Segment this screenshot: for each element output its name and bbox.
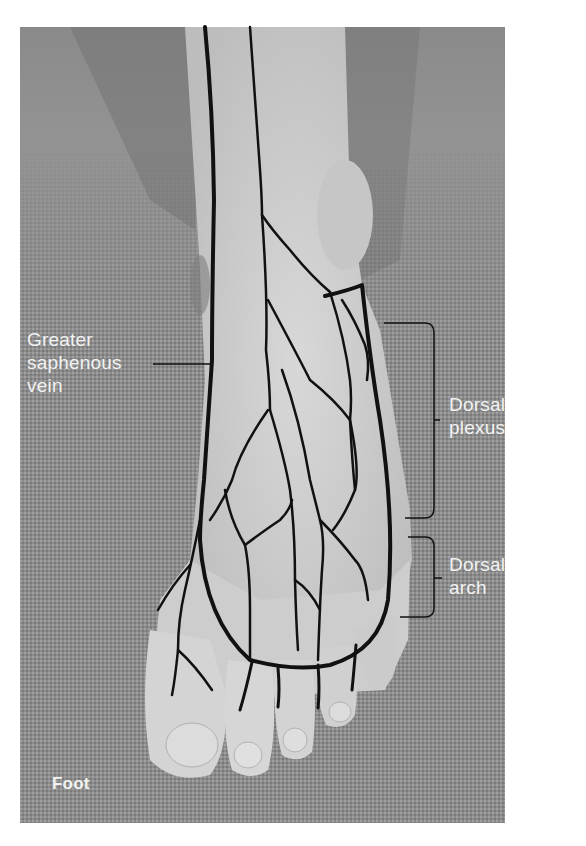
label-line: Dorsal [449,393,505,416]
dorsal-arch-label: Dorsal arch [449,553,505,599]
label-line: Greater [27,328,122,351]
figure-corner-label: Foot [52,772,90,795]
label-line: vein [27,374,122,397]
dorsal-plexus-label: Dorsal plexus [449,393,505,439]
label-line: arch [449,576,505,599]
label-line: saphenous [27,351,122,374]
label-line: Dorsal [449,553,505,576]
label-line: plexus [449,416,505,439]
foot-label: Foot [52,774,90,793]
greater-saphenous-vein-label: Greater saphenous vein [27,328,122,397]
